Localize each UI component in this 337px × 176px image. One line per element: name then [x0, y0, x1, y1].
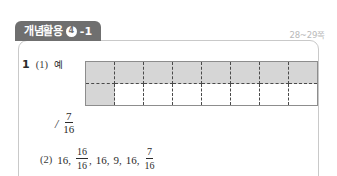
grid-cell: [173, 84, 202, 106]
answer-fraction-1: 7 16: [63, 111, 74, 135]
fraction-numerator: 16: [76, 147, 88, 159]
answer-item: 16: [57, 154, 68, 166]
circled-number-icon: 4: [66, 26, 77, 37]
grid-cell: [260, 62, 289, 84]
section-tab-title: 개념활용: [24, 26, 63, 37]
grid-cell: [202, 84, 231, 106]
fraction-denominator: 16: [63, 123, 74, 135]
grid-row: [86, 62, 318, 84]
grid-cell: [144, 84, 173, 106]
answer-separator: ,: [119, 154, 122, 166]
fraction-grid: [85, 61, 318, 106]
problem-heading: 1 (1) 예: [22, 58, 63, 72]
answer-separator: ,: [68, 154, 71, 166]
fraction-numerator: 7: [65, 111, 73, 123]
section-tab[interactable]: 개념활용 4 -1: [15, 21, 101, 41]
answer-item: 16 16: [75, 148, 89, 172]
sub-problem-label-1: (1): [36, 58, 48, 72]
grid-cell: [231, 62, 260, 84]
example-marker: 예: [54, 58, 63, 72]
answer-item: 7 16: [144, 148, 156, 172]
answer-item: 16: [126, 154, 137, 166]
answer-separator: ,: [89, 154, 92, 166]
problem-number: 1: [22, 58, 30, 72]
answer-separator: ,: [107, 154, 110, 166]
grid-cell: [86, 84, 115, 106]
grid-cell: [144, 62, 173, 84]
answer-fraction: 16 16: [76, 147, 88, 171]
answer-fraction: 7 16: [145, 147, 155, 171]
grid-cell: [289, 84, 318, 106]
grid-row: [86, 84, 318, 106]
answer-item: 16: [96, 154, 107, 166]
grid-cell: [115, 62, 144, 84]
grid-cell: [86, 62, 115, 84]
fraction-denominator: 16: [145, 159, 155, 171]
grid-cell: [173, 62, 202, 84]
sub-problem-label-2: (2): [40, 153, 52, 167]
fraction-grid-body: [86, 62, 318, 106]
page-reference: 28~29쪽: [289, 28, 325, 40]
problem-line-1: 1 (1) 예: [22, 58, 63, 72]
answer-value: 16: [126, 154, 137, 166]
answer-line-1: / 7 16: [55, 112, 75, 136]
fraction-grid-wrapper: [85, 61, 318, 106]
answer-separator: ,: [137, 154, 140, 166]
answer-value: 16: [96, 154, 107, 166]
grid-cell: [260, 84, 289, 106]
slash-mark: /: [55, 117, 58, 132]
grid-cell: [202, 62, 231, 84]
fraction-denominator: 16: [77, 159, 87, 171]
grid-cell: [115, 84, 144, 106]
answer-line-2: (2) 16 , 16 16 , 16 , 9 , 16 , 7 16: [40, 148, 156, 172]
fraction-numerator: 7: [146, 147, 153, 159]
answer-value: 16: [57, 154, 68, 166]
grid-cell: [289, 62, 318, 84]
section-tab-suffix: -1: [80, 26, 92, 37]
grid-cell: [231, 84, 260, 106]
